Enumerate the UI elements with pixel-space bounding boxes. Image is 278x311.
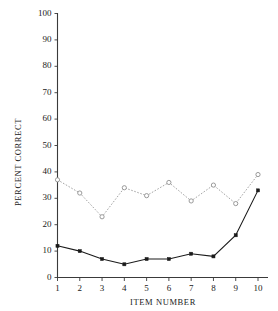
data-point-marker <box>167 180 171 184</box>
y-tick-label: 40 <box>43 166 53 176</box>
x-tick-label: 2 <box>78 283 83 293</box>
y-tick-label: 100 <box>38 8 52 18</box>
x-tick-label: 3 <box>100 283 105 293</box>
data-point-marker <box>234 234 237 237</box>
y-axis-title: PERCENT CORRECT <box>13 118 23 206</box>
y-tick-label: 10 <box>43 245 53 255</box>
x-tick-label: 6 <box>167 283 172 293</box>
data-point-marker <box>101 257 104 260</box>
dotted-series-markers <box>55 172 260 218</box>
solid-series-line <box>58 190 259 264</box>
y-tick-label: 90 <box>43 34 53 44</box>
data-point-marker <box>100 215 104 219</box>
data-point-marker <box>256 172 260 176</box>
y-tick-label: 70 <box>43 87 53 97</box>
y-axis-group: 0102030405060708090100 <box>38 8 58 282</box>
y-tick-label: 80 <box>43 60 53 70</box>
chart-figure: 0102030405060708090100 12345678910 PERCE… <box>0 0 278 311</box>
dotted-series-line <box>58 175 259 217</box>
y-tick-label: 0 <box>47 272 52 282</box>
data-point-marker <box>190 252 193 255</box>
data-point-marker <box>78 250 81 253</box>
data-point-marker <box>167 257 170 260</box>
data-point-marker <box>212 255 215 258</box>
x-axis-tick-labels: 12345678910 <box>55 283 263 293</box>
data-point-marker <box>189 199 193 203</box>
data-point-marker <box>78 191 82 195</box>
data-point-marker <box>55 178 59 182</box>
data-point-marker <box>145 194 149 198</box>
y-tick-label: 60 <box>43 113 53 123</box>
x-tick-label: 1 <box>55 283 60 293</box>
x-tick-label: 10 <box>254 283 264 293</box>
x-tick-label: 9 <box>233 283 238 293</box>
data-point-marker <box>234 201 238 205</box>
x-tick-label: 8 <box>211 283 216 293</box>
data-point-marker <box>56 244 59 247</box>
y-tick-label: 50 <box>43 140 53 150</box>
y-tick-label: 20 <box>43 219 53 229</box>
data-point-marker <box>145 257 148 260</box>
series-dotted-group <box>55 172 260 218</box>
data-point-marker <box>211 183 215 187</box>
y-tick-label: 30 <box>43 192 53 202</box>
x-tick-label: 4 <box>122 283 127 293</box>
line-chart-plot: 0102030405060708090100 12345678910 PERCE… <box>0 0 278 311</box>
data-point-marker <box>123 263 126 266</box>
x-tick-label: 7 <box>189 283 194 293</box>
x-axis-group: 12345678910 <box>55 278 268 293</box>
x-axis-title: ITEM NUMBER <box>130 297 196 307</box>
data-point-marker <box>256 189 259 192</box>
y-axis-tick-labels: 0102030405060708090100 <box>38 8 52 282</box>
data-point-marker <box>122 186 126 190</box>
x-tick-label: 5 <box>144 283 149 293</box>
